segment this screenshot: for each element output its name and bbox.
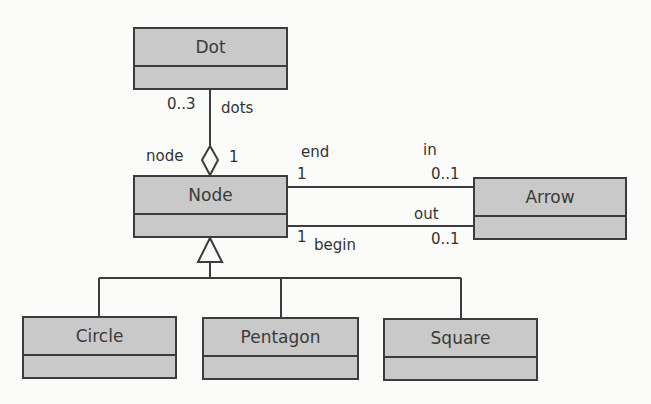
role-node: node xyxy=(146,149,183,164)
class-square[interactable]: Square xyxy=(383,318,538,381)
class-node[interactable]: Node xyxy=(133,175,288,238)
multiplicity-node: 1 xyxy=(229,150,239,165)
class-arrow[interactable]: Arrow xyxy=(473,177,627,240)
multiplicity-out: 0..1 xyxy=(431,232,460,247)
class-circle[interactable]: Circle xyxy=(22,316,177,379)
class-attributes xyxy=(135,67,286,89)
multiplicity-end: 1 xyxy=(297,167,307,182)
class-name: Arrow xyxy=(475,179,625,217)
uml-class-diagram: Dot Node Arrow Circle Pentagon Square 0.… xyxy=(0,0,651,404)
class-attributes xyxy=(135,215,286,237)
class-attributes xyxy=(385,358,536,380)
class-name: Circle xyxy=(24,318,175,356)
class-name: Square xyxy=(385,320,536,358)
class-name: Dot xyxy=(135,29,286,67)
role-begin: begin xyxy=(314,238,356,253)
class-attributes xyxy=(24,356,175,378)
multiplicity-dots: 0..3 xyxy=(167,97,196,112)
class-name: Node xyxy=(135,177,286,215)
role-out: out xyxy=(414,207,439,222)
class-name: Pentagon xyxy=(204,319,357,357)
multiplicity-begin: 1 xyxy=(297,230,307,245)
role-in: in xyxy=(423,143,437,158)
aggregation-diamond-icon xyxy=(202,146,218,175)
class-attributes xyxy=(204,357,357,379)
generalization-triangle-icon xyxy=(198,238,222,262)
multiplicity-in: 0..1 xyxy=(431,167,460,182)
class-attributes xyxy=(475,217,625,239)
role-dots: dots xyxy=(221,101,253,116)
class-pentagon[interactable]: Pentagon xyxy=(202,317,359,380)
class-dot[interactable]: Dot xyxy=(133,27,288,90)
role-end: end xyxy=(301,145,329,160)
